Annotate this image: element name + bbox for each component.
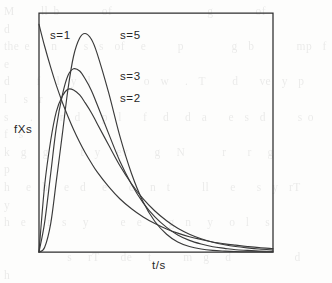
curve-group <box>39 24 273 252</box>
series-label-s2: s=2 <box>120 92 141 104</box>
curve-s1 <box>39 24 273 248</box>
curve-s2 <box>39 89 273 252</box>
series-label-s1: s=1 <box>50 29 71 41</box>
series-label-s5: s=5 <box>120 29 141 41</box>
x-axis-label: t/s <box>152 259 166 271</box>
y-axis-label: fXs <box>14 123 32 135</box>
plot-frame <box>39 13 273 252</box>
series-label-group: s=1s=5s=3s=2 <box>50 29 141 104</box>
figure-page: M ll b of g of d the e n s s of e p g b … <box>0 0 332 283</box>
curve-s5 <box>39 33 273 252</box>
plot-area: fXs t/s s=1s=5s=3s=2 <box>0 0 332 283</box>
chart-svg: fXs t/s s=1s=5s=3s=2 <box>0 0 332 283</box>
series-label-s3: s=3 <box>120 70 141 82</box>
